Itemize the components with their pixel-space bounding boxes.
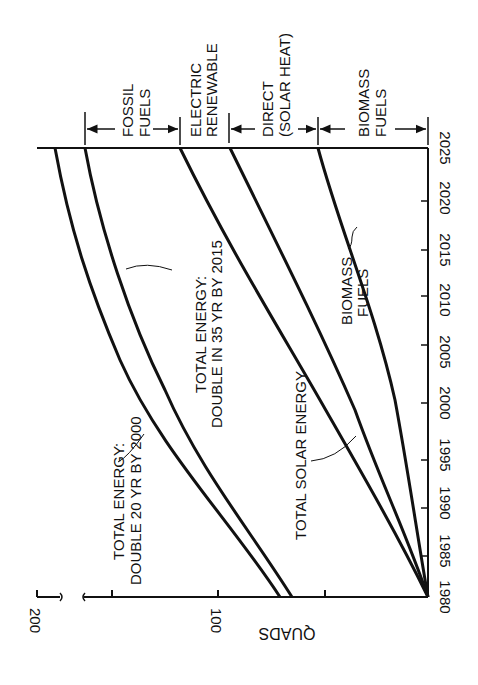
year-label: 2005 [437, 335, 454, 368]
quads-axis-title: QUADS [259, 625, 316, 642]
band-label-electric: RENEWABLE [203, 43, 220, 137]
year-label: 1995 [437, 438, 454, 471]
curve-direct-solar-heat [230, 148, 428, 597]
year-label: 2020 [437, 181, 454, 214]
year-label: 1990 [437, 486, 454, 519]
annotation-total-20yr: TOTAL ENERGY: [110, 443, 127, 560]
year-label: 2000 [437, 386, 454, 419]
year-label: 2025 [437, 131, 454, 164]
band-label-direct: DIRECT [259, 81, 276, 137]
leader-lines [118, 227, 357, 462]
quads-tick-100: 100 [208, 608, 225, 633]
quads-labels: 200 100 QUADS [27, 608, 315, 642]
energy-projection-chart: 1980 1985 1990 1995 2000 2005 2010 2015 … [0, 0, 478, 685]
year-label: 1980 [437, 580, 454, 613]
year-label: 2015 [437, 233, 454, 266]
year-label: 1985 [437, 534, 454, 567]
band-label-fossil: FUELS [136, 89, 153, 137]
curve-biomass-fuels [318, 148, 428, 597]
annotation-total-35yr: DOUBLE IN 35 YR BY 2015 [208, 240, 225, 428]
axis-break-icon [60, 593, 62, 601]
band-label-direct: (SOLAR HEAT) [276, 33, 293, 137]
annotation-biomass: FUELS [354, 269, 371, 317]
year-label: 2010 [437, 283, 454, 316]
band-label-biomass: BIOMASS [355, 69, 372, 137]
annotation-total-solar: TOTAL SOLAR ENERGY [292, 371, 309, 540]
year-labels: 1980 1985 1990 1995 2000 2005 2010 2015 … [437, 131, 454, 613]
band-label-biomass: FUELS [372, 89, 389, 137]
quads-tick-200: 200 [27, 608, 44, 633]
annotation-total-20yr: DOUBLE 20 YR BY 2000 [127, 416, 144, 585]
band-label-electric: ELECTRIC [187, 63, 204, 137]
year-ticks [421, 201, 428, 556]
band-labels: FOSSIL FUELS ELECTRIC RENEWABLE DIRECT (… [119, 33, 389, 137]
annotation-total-35yr: TOTAL ENERGY: [192, 276, 209, 393]
band-label-fossil: FOSSIL [119, 84, 136, 137]
annotation-biomass: BIOMASS [338, 257, 355, 325]
